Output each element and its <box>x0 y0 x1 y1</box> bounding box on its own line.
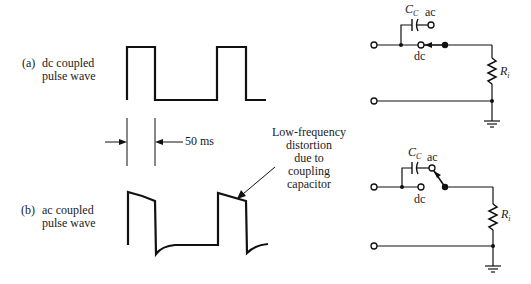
capacitor-label-b: CC <box>408 146 421 163</box>
annotation-line: capacitor <box>266 178 352 191</box>
ground-icon-b <box>485 266 501 272</box>
resistor-b <box>489 204 497 230</box>
switch-dc-label-a: dc <box>414 50 425 63</box>
dimension-label: 50 ms <box>185 135 214 148</box>
panel-a-label-line2: pulse wave <box>42 70 96 83</box>
switch-dc-contact-a <box>418 42 424 48</box>
resistor-label-a: Ri <box>500 65 510 82</box>
input-terminal-bottom-b <box>371 243 377 249</box>
dimension-arrow-left-head <box>119 139 127 145</box>
switch-dc-contact-b <box>418 184 424 190</box>
annotation-text: Low-frequency distortion due to coupling… <box>266 126 352 191</box>
panel-b-label-line2: pulse wave <box>42 217 96 230</box>
input-terminal-bottom-a <box>371 98 377 104</box>
circuit-a <box>371 19 500 127</box>
switch-ac-label-b: ac <box>427 151 438 164</box>
switch-ac-label-a: ac <box>425 6 436 19</box>
ac-coupled-waveform <box>128 192 268 254</box>
resistor-a <box>488 58 496 84</box>
switch-dc-label-b: dc <box>414 193 425 206</box>
resistor-label-b: Ri <box>501 208 511 225</box>
ground-icon-a <box>484 121 500 127</box>
switch-ac-contact-a <box>428 22 434 28</box>
circuit-b <box>371 162 501 272</box>
dc-coupled-waveform <box>127 47 266 100</box>
capacitor-label-a: CC <box>405 3 418 20</box>
input-terminal-top-b <box>371 184 377 190</box>
panel-b-tag: (b) <box>21 204 35 217</box>
input-terminal-top-a <box>371 42 377 48</box>
panel-a-tag: (a) <box>22 57 35 70</box>
switch-ac-contact-b <box>429 165 435 171</box>
annotation-arrow-head <box>237 190 246 199</box>
dimension-arrow-right-head <box>155 139 163 145</box>
